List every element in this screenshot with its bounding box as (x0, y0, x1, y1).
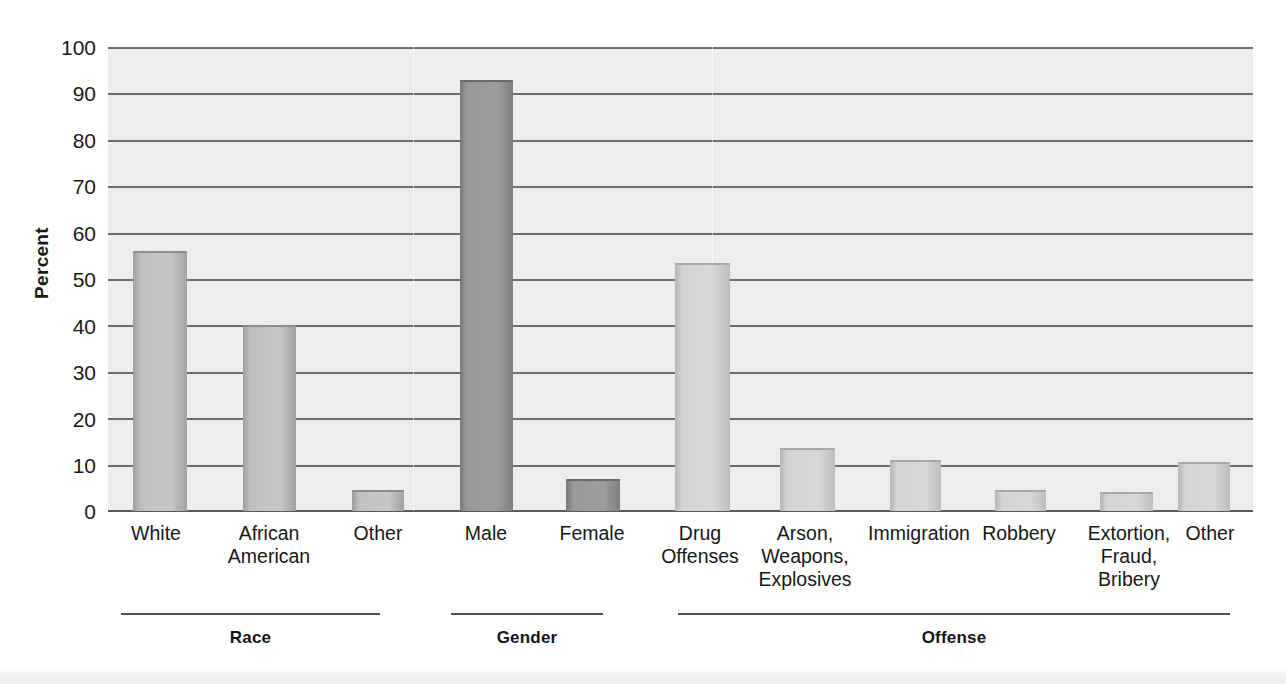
bar-drug-offenses[interactable] (675, 263, 730, 511)
group-rule-gender (451, 613, 603, 615)
group-label-offense: Offense (678, 628, 1230, 648)
gridline-70 (108, 186, 1253, 188)
y-tick-60: 60 (36, 223, 96, 244)
scan-separator (413, 47, 414, 511)
y-tick-0: 0 (36, 501, 96, 522)
y-tick-70: 70 (36, 176, 96, 197)
group-rule-offense (678, 613, 1230, 615)
y-tick-30: 30 (36, 362, 96, 383)
y-tick-10: 10 (36, 455, 96, 476)
bar-male[interactable] (460, 80, 513, 512)
y-tick-20: 20 (36, 409, 96, 430)
bar-race-other[interactable] (352, 490, 404, 511)
label-line-2: Weapons, (737, 545, 873, 568)
y-tick-50: 50 (36, 269, 96, 290)
group-rule-race (121, 613, 380, 615)
y-tick-80: 80 (36, 130, 96, 151)
bar-african-american[interactable] (243, 325, 296, 511)
category-label-offense-other: Other (1142, 522, 1278, 545)
gridline-100 (108, 47, 1253, 49)
bar-extortion-fraud-bribery[interactable] (1100, 492, 1153, 511)
label-line-3: Explosives (737, 568, 873, 591)
scan-artifact-band (0, 668, 1286, 684)
label-line-1: Other (1142, 522, 1278, 545)
label-line-2: Fraud, (1056, 545, 1202, 568)
label-line-3: Bribery (1056, 568, 1202, 591)
group-label-race: Race (121, 628, 380, 648)
gridline-60 (108, 233, 1253, 235)
group-label-gender: Gender (451, 628, 603, 648)
y-tick-90: 90 (36, 83, 96, 104)
bar-arson-weapons-explosives[interactable] (780, 448, 835, 511)
bar-immigration[interactable] (890, 460, 941, 511)
gridline-90 (108, 93, 1253, 95)
label-line-2: American (201, 545, 337, 568)
bar-offense-other[interactable] (1178, 462, 1230, 511)
y-tick-100: 100 (36, 37, 96, 58)
plot-area (108, 47, 1253, 511)
chart-page: Percent 100 90 80 70 60 50 40 30 20 10 0 (0, 0, 1286, 684)
y-tick-40: 40 (36, 316, 96, 337)
bar-robbery[interactable] (995, 490, 1046, 511)
bar-female[interactable] (566, 479, 620, 512)
bar-white[interactable] (133, 251, 187, 511)
gridline-80 (108, 140, 1253, 142)
